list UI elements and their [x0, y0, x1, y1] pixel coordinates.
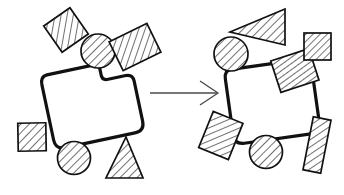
shape-assembly-diagram	[0, 0, 344, 195]
piece-circle-bottom-right[interactable]	[250, 136, 283, 169]
piece-circle-top-right[interactable]	[214, 37, 248, 71]
piece-circle-top-left[interactable]	[81, 34, 115, 68]
piece-circle-bottom-left[interactable]	[58, 142, 91, 175]
piece-square-bottom-left[interactable]	[18, 123, 46, 151]
piece-square-top-right[interactable]	[304, 33, 331, 60]
figure-root	[0, 0, 344, 195]
